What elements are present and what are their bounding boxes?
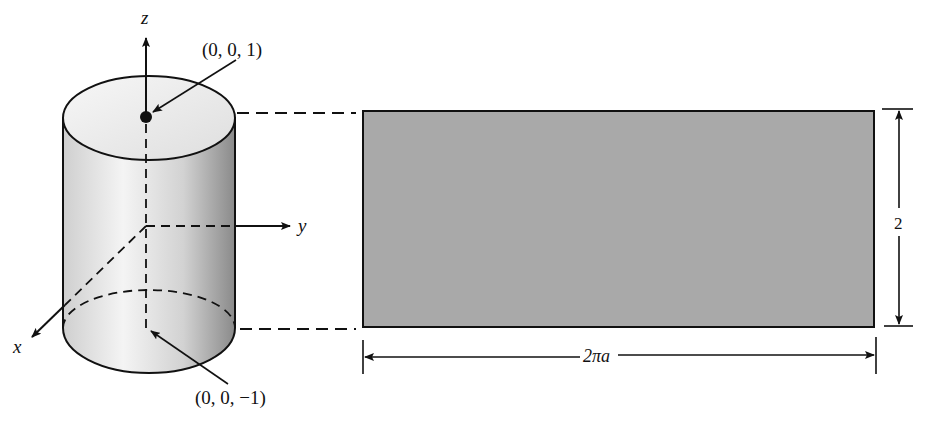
top-point-marker: [140, 111, 152, 123]
top-point-label: (0, 0, 1): [202, 39, 262, 61]
cylinder-unrolling-diagram: z y x (0, 0, 1) (0, 0, −1) 2 2πa: [0, 0, 925, 422]
z-axis-label: z: [140, 7, 149, 28]
width-label: 2πa: [583, 346, 610, 366]
bottom-point-label: (0, 0, −1): [195, 387, 266, 409]
y-axis-label: y: [296, 215, 307, 236]
height-dimension: 2: [882, 109, 913, 326]
width-dimension: 2πa: [363, 337, 876, 374]
unrolled-rectangle: [363, 111, 874, 327]
x-axis-label: x: [12, 336, 22, 357]
x-axis-arrow: [32, 305, 65, 337]
height-label: 2: [894, 214, 903, 233]
